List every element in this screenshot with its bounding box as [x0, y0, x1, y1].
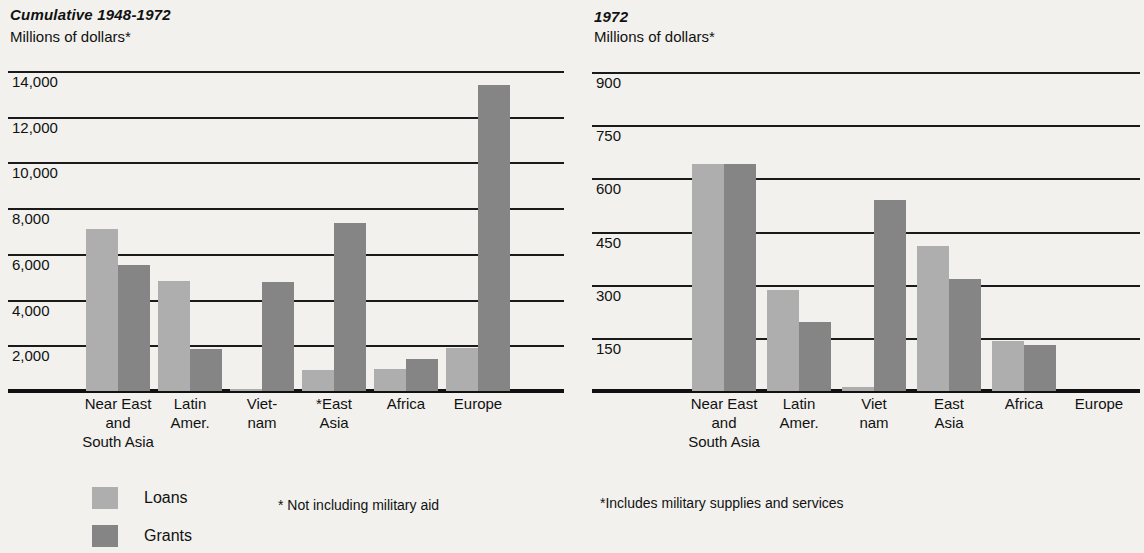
bar-group [767, 58, 831, 391]
right-chart-title: 1972 [594, 8, 628, 25]
bar-group [374, 56, 438, 391]
legend-row-grants: Grants [92, 525, 192, 547]
bar-loans [446, 348, 478, 391]
chart-panel-cumulative: Cumulative 1948-1972 Millions of dollars… [0, 0, 572, 553]
bar-grants [262, 282, 294, 391]
bar-loans [692, 164, 724, 391]
bar-grants [799, 322, 831, 391]
bar-grants [1024, 345, 1056, 391]
left-chart-title: Cumulative 1948-1972 [10, 6, 171, 23]
left-footnote: * Not including military aid [278, 497, 439, 513]
bar-loans [302, 370, 334, 391]
legend: Loans Grants [92, 487, 272, 553]
bar-group [86, 56, 150, 391]
bar-loans [158, 281, 190, 391]
chart-panel-1972: 1972 Millions of dollars* 90075060045030… [572, 0, 1144, 553]
right-plot-area: 900750600450300150 [592, 58, 1140, 391]
left-plot-area: 14,00012,00010,0008,0006,0004,0002,000 [8, 56, 564, 391]
x-axis-category-label: Europe [430, 394, 526, 413]
bar-grants [874, 200, 906, 391]
bar-grants [334, 223, 366, 391]
y-axis-tick-label: 6,000 [12, 257, 50, 272]
y-axis-tick-label: 600 [596, 181, 621, 196]
bar-loans [842, 387, 874, 391]
bar-group [302, 56, 366, 391]
right-chart-subtitle: Millions of dollars* [594, 28, 715, 45]
legend-swatch-grants [92, 525, 118, 547]
legend-row-loans: Loans [92, 487, 188, 509]
bar-loans [767, 290, 799, 391]
y-axis-tick-label: 750 [596, 128, 621, 143]
y-axis-tick-label: 450 [596, 235, 621, 250]
bar-grants [406, 359, 438, 391]
right-footnote: *Includes military supplies and services [600, 495, 844, 511]
chart-page: { "chart_data": [ { "type": "bar", "titl… [0, 0, 1144, 553]
y-axis-tick-label: 14,000 [12, 74, 58, 89]
left-chart-subtitle: Millions of dollars* [10, 28, 131, 45]
bar-group [917, 58, 981, 391]
bar-grants [478, 85, 510, 391]
bar-group [446, 56, 510, 391]
y-axis-tick-label: 900 [596, 75, 621, 90]
legend-swatch-loans [92, 487, 118, 509]
x-axis-category-label: Europe [1050, 394, 1144, 413]
y-axis-tick-label: 8,000 [12, 211, 50, 226]
bar-group [1067, 58, 1131, 391]
y-axis-tick-label: 150 [596, 341, 621, 356]
bar-group [158, 56, 222, 391]
y-axis-tick-label: 2,000 [12, 348, 50, 363]
y-axis-tick-label: 4,000 [12, 303, 50, 318]
bar-loans [374, 369, 406, 391]
legend-label-grants: Grants [144, 527, 192, 545]
bar-loans [230, 389, 262, 391]
bar-loans [86, 229, 118, 391]
y-axis-tick-label: 10,000 [12, 165, 58, 180]
bar-grants [949, 279, 981, 391]
y-axis-tick-label: 300 [596, 288, 621, 303]
bar-loans [992, 341, 1024, 391]
bar-loans [917, 246, 949, 391]
legend-label-loans: Loans [144, 489, 188, 507]
bar-grants [724, 164, 756, 391]
y-axis-tick-label: 12,000 [12, 120, 58, 135]
bar-group [842, 58, 906, 391]
bar-group [692, 58, 756, 391]
bar-group [992, 58, 1056, 391]
bar-group [230, 56, 294, 391]
bar-grants [118, 265, 150, 391]
bar-grants [190, 349, 222, 391]
